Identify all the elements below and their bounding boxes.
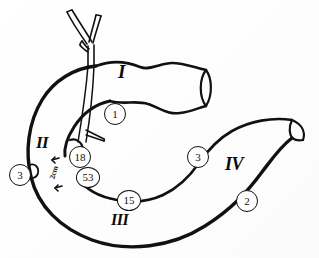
duodenum-diagram: I II III IV 1 18 53 3 15 3 2 2cm	[0, 0, 319, 258]
callout-marker-3-right: 3	[187, 146, 209, 168]
pylorus-upper-contour	[96, 62, 206, 70]
stomach-cut-end	[201, 70, 211, 106]
part-label-descending: II	[36, 134, 48, 151]
callout-marker-3-left: 3	[9, 164, 31, 186]
callout-marker-15: 15	[117, 190, 141, 211]
callout-marker-18: 18	[69, 146, 91, 168]
jejunum-cut-end	[290, 120, 304, 140]
callout-marker-1: 1	[104, 103, 126, 125]
part-label-ascending: IV	[225, 155, 243, 173]
anatomy-line-art	[0, 0, 319, 258]
callout-marker-2: 2	[236, 190, 258, 212]
callout-marker-53: 53	[76, 167, 100, 188]
part-label-superior: I	[118, 62, 125, 81]
duodenum-outer-wall	[28, 66, 292, 247]
bile-duct-branch	[67, 10, 101, 66]
part-label-horizontal: III	[111, 212, 128, 228]
